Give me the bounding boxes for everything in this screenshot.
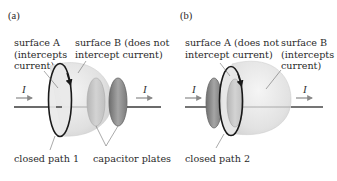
panel-a: (a) surface A (intercepts current) surfa… xyxy=(8,10,171,164)
closed-path-1-leader xyxy=(50,136,55,150)
surface-a-label-line1: surface A xyxy=(14,37,61,48)
current-in-label: I xyxy=(21,83,27,95)
surface-a-label-line3: current) xyxy=(14,60,54,71)
capacitor-plate-1 xyxy=(87,78,105,126)
surface-b-label-line1: surface B (does not xyxy=(75,37,169,48)
panel-b: (b) surface A (does not intercept curren… xyxy=(180,10,334,164)
surface-b-label-line2: intercept current) xyxy=(75,49,163,60)
current-out-label: I xyxy=(142,83,148,95)
surface-a-label-line2: (intercepts xyxy=(14,49,67,60)
surface-b-label-line3: current) xyxy=(281,60,321,71)
surface-a-label-line2: intercept current) xyxy=(185,49,273,60)
closed-path-2-label: closed path 2 xyxy=(185,153,250,164)
panel-b-label: (b) xyxy=(180,10,193,22)
closed-path-1-label: closed path 1 xyxy=(14,153,79,164)
surface-b-label-line1: surface B xyxy=(281,37,327,48)
surface-a-label-line1: surface A (does not xyxy=(185,37,279,48)
ampere-capacitor-diagram: (a) surface A (intercepts current) surfa… xyxy=(0,0,337,181)
current-in-label: I xyxy=(191,83,197,95)
capacitor-plates-leader xyxy=(96,126,118,146)
panel-a-label: (a) xyxy=(8,10,20,22)
surface-b-label-line2: (intercepts xyxy=(281,49,334,60)
capacitor-plates-label: capacitor plates xyxy=(93,153,171,164)
current-out-label: I xyxy=(302,83,308,95)
closed-path-2-leader xyxy=(216,134,224,148)
capacitor-plate-2 xyxy=(109,78,127,126)
